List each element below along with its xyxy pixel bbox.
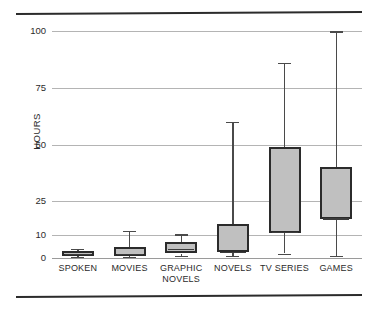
y-tick-label-0: 0	[6, 253, 46, 263]
upper-whisker-cap	[330, 31, 343, 33]
upper-whisker	[284, 63, 285, 147]
category-label-novels: NOVELS	[207, 263, 259, 274]
box-iqr	[269, 147, 301, 233]
category-label-games: GAMES	[310, 263, 362, 274]
bottom-divider-rule	[16, 294, 362, 298]
plot-area: 010255075100 SPOKENMOVIESGRAPHIC NOVELSN…	[52, 20, 362, 265]
lower-whisker	[336, 219, 337, 255]
upper-whisker-cap	[226, 122, 239, 124]
top-divider-rule	[16, 11, 362, 15]
gridline-75	[52, 88, 362, 89]
y-tick-label-75: 75	[6, 83, 46, 93]
upper-whisker-cap	[123, 231, 136, 233]
category-label-spoken: SPOKEN	[52, 263, 104, 274]
category-label-graphic-novels: GRAPHIC NOVELS	[155, 263, 207, 285]
lower-whisker-cap	[330, 256, 343, 258]
lower-whisker-cap	[123, 257, 136, 259]
upper-whisker-cap	[278, 63, 291, 65]
lower-whisker	[284, 233, 285, 253]
gridline-100	[52, 31, 362, 32]
upper-whisker	[129, 231, 130, 247]
y-tick-label-25: 25	[6, 196, 46, 206]
box-plot-item	[217, 20, 249, 265]
upper-whisker	[336, 31, 337, 167]
box-iqr	[165, 242, 197, 253]
box-plot-item	[165, 20, 197, 265]
lower-whisker-cap	[278, 254, 291, 256]
median-line	[168, 249, 194, 251]
box-plot-item	[320, 20, 352, 265]
y-tick-label-100: 100	[6, 26, 46, 36]
median-line	[323, 218, 349, 220]
lower-whisker-cap	[175, 256, 188, 258]
y-tick-label-10: 10	[6, 230, 46, 240]
box-iqr	[320, 167, 352, 219]
median-line	[117, 254, 143, 256]
category-label-movies: MOVIES	[104, 263, 156, 274]
box-iqr	[217, 224, 249, 252]
gridline-25	[52, 201, 362, 202]
median-line	[272, 232, 298, 234]
box-plot-item	[269, 20, 301, 265]
lower-whisker-cap	[71, 257, 84, 259]
category-label-tv-series: TV SERIES	[259, 263, 311, 274]
box-plot-item	[114, 20, 146, 265]
axis-baseline	[52, 258, 362, 259]
upper-whisker	[232, 122, 233, 224]
box-plot-item	[62, 20, 94, 265]
median-line	[65, 254, 91, 256]
gridline-10	[52, 235, 362, 236]
y-tick-label-50: 50	[6, 140, 46, 150]
median-line	[220, 252, 246, 254]
box-plot-figure: HOURS 010255075100 SPOKENMOVIESGRAPHIC N…	[0, 0, 374, 312]
lower-whisker-cap	[226, 256, 239, 258]
gridline-50	[52, 145, 362, 146]
upper-whisker-cap	[175, 234, 188, 236]
